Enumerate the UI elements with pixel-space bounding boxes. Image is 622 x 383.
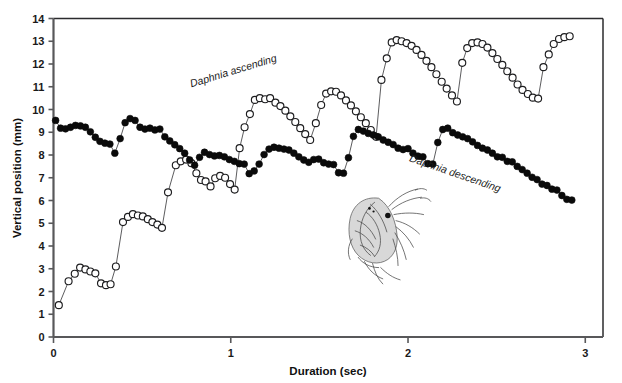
data-point bbox=[117, 135, 124, 142]
data-point bbox=[107, 281, 114, 288]
data-point bbox=[236, 145, 243, 152]
data-point bbox=[352, 108, 359, 115]
data-point bbox=[347, 102, 354, 109]
chart-figure: 01234567891011121314 0123 Vertical posit… bbox=[0, 0, 622, 383]
x-tick-label: 1 bbox=[228, 347, 234, 359]
data-point bbox=[111, 150, 118, 157]
y-tick-label: 14 bbox=[32, 13, 45, 25]
data-point bbox=[499, 61, 506, 68]
y-tick-label: 11 bbox=[33, 81, 45, 93]
data-point bbox=[438, 78, 445, 85]
data-point bbox=[193, 170, 200, 177]
data-point bbox=[318, 101, 325, 108]
data-point bbox=[434, 139, 441, 146]
data-point bbox=[459, 59, 466, 66]
data-point bbox=[207, 183, 214, 190]
data-point bbox=[545, 51, 552, 58]
data-point bbox=[423, 57, 430, 64]
data-point bbox=[307, 136, 314, 143]
vertical-position-vs-duration-chart: 01234567891011121314 0123 Vertical posit… bbox=[0, 0, 622, 383]
y-tick-label: 10 bbox=[32, 104, 44, 116]
x-axis-title: Duration (sec) bbox=[289, 365, 366, 377]
data-point bbox=[433, 71, 440, 78]
data-point bbox=[297, 125, 304, 132]
y-tick-label: 4 bbox=[38, 240, 45, 252]
data-point bbox=[241, 124, 248, 131]
y-tick-label: 1 bbox=[38, 308, 44, 320]
data-point bbox=[181, 150, 188, 157]
data-point bbox=[87, 128, 94, 135]
data-point bbox=[132, 117, 139, 124]
x-tick-label: 3 bbox=[582, 347, 588, 359]
figure-background bbox=[0, 0, 622, 383]
data-point bbox=[302, 131, 309, 138]
y-tick-label: 2 bbox=[38, 286, 44, 298]
data-point bbox=[287, 113, 294, 120]
data-point bbox=[568, 197, 575, 204]
data-point bbox=[106, 141, 113, 148]
y-tick-label: 6 bbox=[38, 195, 44, 207]
data-point bbox=[535, 95, 542, 102]
y-tick-label: 3 bbox=[38, 263, 44, 275]
data-point bbox=[186, 157, 193, 164]
data-point bbox=[55, 302, 62, 309]
data-point bbox=[489, 50, 496, 57]
data-point bbox=[158, 224, 165, 231]
data-point bbox=[357, 114, 364, 121]
data-point bbox=[340, 170, 347, 177]
data-point bbox=[350, 133, 357, 140]
y-tick-label: 12 bbox=[32, 58, 44, 70]
data-point bbox=[540, 64, 547, 71]
data-point bbox=[231, 186, 238, 193]
data-point bbox=[292, 119, 299, 126]
data-point bbox=[428, 64, 435, 71]
data-point bbox=[443, 85, 450, 92]
x-tick-label: 0 bbox=[50, 347, 56, 359]
data-point bbox=[378, 76, 385, 83]
y-tick-label: 5 bbox=[38, 217, 44, 229]
data-point bbox=[554, 187, 561, 194]
data-point bbox=[494, 56, 501, 63]
data-point bbox=[261, 151, 268, 158]
data-point bbox=[256, 161, 263, 168]
data-point bbox=[92, 270, 99, 277]
y-axis-title: Vertical position (mm) bbox=[11, 118, 23, 238]
y-tick-label: 13 bbox=[32, 35, 44, 47]
data-point bbox=[453, 98, 460, 105]
data-point bbox=[418, 51, 425, 58]
data-point bbox=[156, 126, 163, 133]
data-point bbox=[509, 74, 516, 81]
data-point bbox=[566, 33, 573, 40]
data-point bbox=[448, 92, 455, 99]
data-point bbox=[165, 189, 172, 196]
data-point bbox=[71, 270, 78, 277]
data-point bbox=[312, 120, 319, 127]
y-tick-label: 8 bbox=[38, 149, 44, 161]
data-point bbox=[345, 154, 352, 161]
data-point bbox=[241, 161, 248, 168]
data-point bbox=[362, 120, 369, 127]
data-point bbox=[52, 117, 59, 124]
data-point bbox=[112, 263, 119, 270]
data-point bbox=[191, 162, 198, 169]
data-point bbox=[330, 161, 337, 168]
data-point bbox=[246, 111, 253, 118]
data-point bbox=[383, 55, 390, 62]
data-point bbox=[65, 278, 72, 285]
data-point bbox=[282, 107, 289, 114]
data-point bbox=[222, 174, 229, 181]
y-tick-label: 9 bbox=[38, 126, 44, 138]
y-tick-label: 0 bbox=[38, 331, 44, 343]
y-tick-label: 7 bbox=[38, 172, 44, 184]
x-tick-label: 2 bbox=[405, 347, 411, 359]
data-point bbox=[251, 168, 258, 175]
data-point bbox=[504, 68, 511, 75]
